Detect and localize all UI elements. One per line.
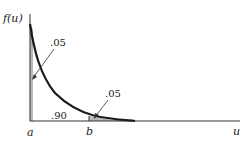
x-axis-label: u	[233, 126, 240, 137]
density-curve	[30, 24, 135, 121]
chart-plot	[0, 0, 249, 141]
tick-label-b: b	[86, 126, 93, 137]
density-chart: f(u) u a b .05 .05 .90	[0, 0, 249, 141]
middle-area-label: .90	[51, 111, 67, 121]
right-tail-label: .05	[105, 89, 121, 99]
y-axis-label: f(u)	[3, 13, 23, 24]
left-tail-label: .05	[50, 38, 66, 48]
tick-label-a: a	[27, 127, 34, 138]
